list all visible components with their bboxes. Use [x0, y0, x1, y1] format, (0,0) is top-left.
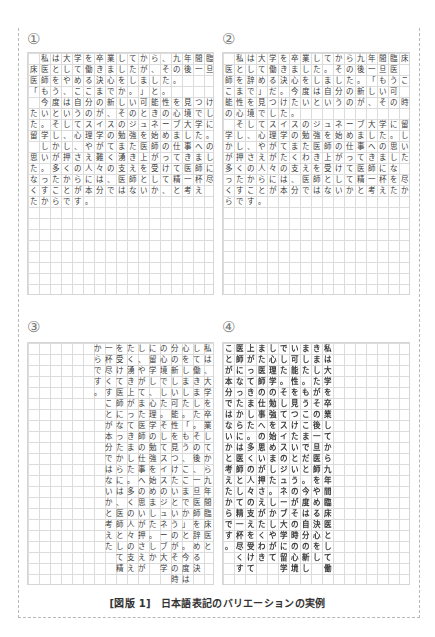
text-line: 今度は自分の新しい可能性を見つけ	[28, 97, 213, 108]
text-column: 私は、大学を卒業してから九年間臨床医と	[202, 343, 213, 585]
text-line: 私は大学を卒業してから九年間臨床	[223, 53, 409, 64]
text-line: 床医として働きましたが、その後一旦	[28, 64, 213, 75]
text-line: かし、やがてまた医師の仕事への思い	[223, 141, 409, 152]
text-column: を受けて医師になったからには、医師として精	[114, 343, 125, 585]
manuscript-grid-2: 私は大学を卒業してから九年間臨床医として働きました。その後一旦医師を辞める決心を…	[222, 52, 410, 295]
manuscript-grid-1: 私は大学を卒業してから、九年間臨床医として働きましたが、その後一旦医師をやめる決…	[27, 52, 214, 295]
panel-label-1: ①	[27, 32, 40, 47]
text-line: 留学し、心理学の勉強を始めました。	[28, 130, 213, 141]
text-line: 師を辞める決心をしました。「もうこ	[223, 75, 409, 86]
handwritten-text-horizontal: 私は大学を卒業してから、九年間臨床医として働きましたが、その後一旦医師をやめる決…	[28, 53, 213, 207]
text-line: くすことが本分ではないか、と考え	[28, 185, 213, 196]
figure-caption: [図版 1]日本語表記のバリエーションの実例	[0, 595, 435, 610]
text-line: なったからには、医師として精一杯尽	[28, 174, 213, 185]
text-column: 私は大学を卒業してから九年間臨床医として働	[322, 343, 333, 574]
text-line: くすことが本分ではないかと考えたか	[223, 185, 409, 196]
text-column: し心理学の勉強を始めました。しかしやがて	[267, 343, 278, 574]
text-line: らです。	[223, 196, 409, 207]
text-line: 多くの人々の支えを受けて医師にな	[223, 163, 409, 174]
text-line: 思いが押さえ難く湧き上がってきまし	[28, 152, 213, 163]
text-line: 学し、心理学の勉強を始めました。し	[223, 130, 409, 141]
text-line: た。そしてスイスのジュネーブ大学に	[28, 119, 213, 130]
text-column: 上がってきました。多くの人々の支えを受けて	[245, 343, 256, 574]
handwritten-text-vertical: 私は、大学を卒業してから九年間臨床医として働きました。その後、一旦医師を辞める決…	[92, 343, 213, 585]
text-column: して働きました。その後、一旦医師を辞める決	[191, 343, 202, 585]
manuscript-grid-4: ことが本分ではないかと考えたからです。医師になったからには医師として精一杯尽くす…	[222, 342, 410, 585]
manuscript-grid-3: 私は、大学を卒業してから九年間臨床医として働きました。その後、一旦医師を辞める決…	[27, 342, 214, 585]
text-line: の心境でした。	[223, 108, 409, 119]
text-line: たいというのが、そのときの心境でし	[28, 108, 213, 119]
panel-label-3: ③	[27, 320, 40, 335]
text-column: ことが本分ではないかと考えたからです。	[223, 343, 234, 574]
text-column: からです。	[92, 343, 103, 585]
figure-title: 日本語表記のバリエーションの実例	[161, 598, 326, 609]
text-line: たからです。	[28, 196, 213, 207]
text-line: 医として働きました。その後一旦医	[223, 64, 409, 75]
text-line: 私は大学を卒業してから、九年間臨	[28, 53, 213, 64]
text-line: 能性を見つけたいというのが、その時	[223, 97, 409, 108]
text-column: 医師になったからには医師として精一杯尽くす	[234, 343, 245, 574]
text-column: また医師の仕事への思いが押さえがたくわき	[256, 343, 267, 574]
text-column: 心をしました。「もう、ここまでか」と。今度は自	[180, 343, 191, 585]
text-column: の心境でした。そしてスイスのジュネーブ大学	[158, 343, 169, 585]
figure-number: [図版 1]	[109, 598, 150, 609]
text-line: そしてスイスのジュネーブ大学に留	[223, 119, 409, 130]
text-line: 医師をやめる決心をしました。	[28, 75, 213, 86]
text-column: ました。もうここまでだと。今度は自分の新し	[300, 343, 311, 574]
panel-label-4: ④	[222, 320, 235, 335]
text-column: でした。そしてスイスのジュネーブ大学に留学	[278, 343, 289, 574]
text-line: 「もう、ここまでか。」と。	[28, 86, 213, 97]
text-line: が押さえがたくわき上がってきました。	[223, 152, 409, 163]
handwritten-text-horizontal: 私は大学を卒業してから九年間臨床医として働きました。その後一旦医師を辞める決心を…	[223, 53, 409, 207]
handwritten-text-vertical-messy: ことが本分ではないかと考えたからです。医師になったからには医師として精一杯尽くす…	[223, 343, 333, 574]
text-column: 一杯尽くすことが本分ではないかと考えた	[103, 343, 114, 585]
text-line: ったからには、医師として精一杯を尽	[223, 174, 409, 185]
text-column: し、やがてまた医師の仕事への思いが押さえが	[136, 343, 147, 585]
text-column: に留学し、心理学の勉強を始めました。しか	[147, 343, 158, 585]
text-line: こまで」だ。今度は自分の新しい可	[223, 86, 409, 97]
text-column: 分の新しい可能性を見つけたいというのがその時	[169, 343, 180, 585]
text-column: たく湧き上がってきました。多くの人々の支え	[125, 343, 136, 585]
text-line: しかし、やがてまた医師の仕事への	[28, 141, 213, 152]
panel-label-2: ②	[222, 32, 235, 47]
text-line: た。多くの人々の支えを受けて医師に	[28, 163, 213, 174]
text-column: い可能性を見つけたいというのがその時の心境	[289, 343, 300, 574]
text-column: きましたがその後一旦医師をやめる決心をし	[311, 343, 322, 574]
